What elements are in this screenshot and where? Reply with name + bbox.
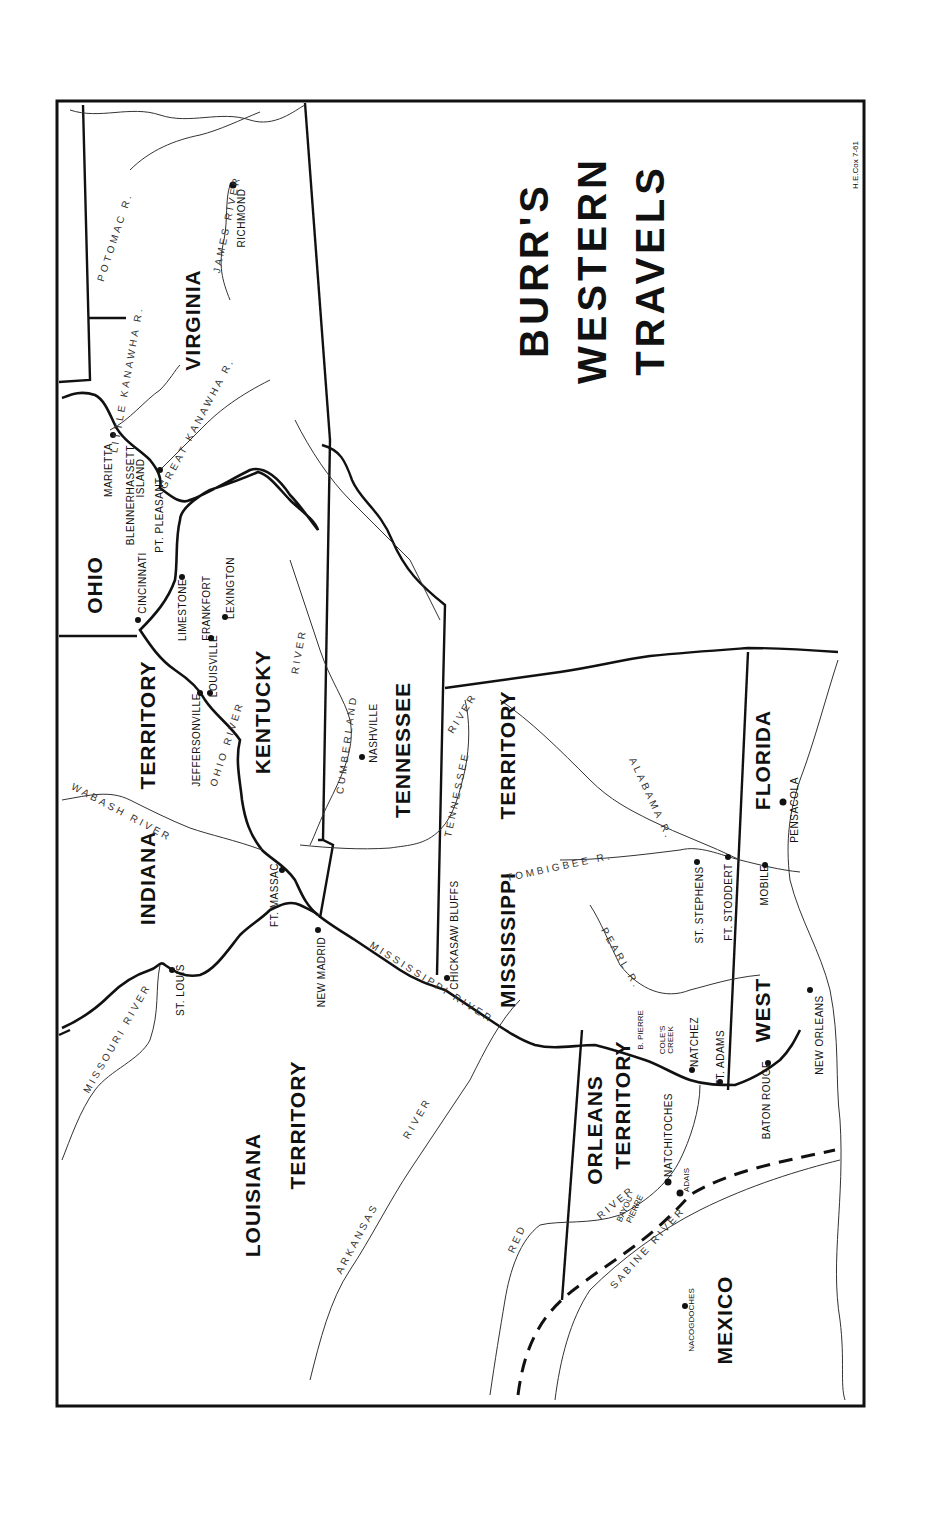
label-mississippi: MISSISSIPPI	[496, 872, 519, 1008]
georgia-boundary	[445, 648, 838, 688]
map-credit: H.E.Cox 7-61	[851, 140, 860, 189]
label-arkansas-river: RIVER	[401, 1096, 433, 1141]
mexico-border	[518, 1150, 835, 1395]
label-pensacola: PENSACOLA	[789, 777, 800, 843]
label-indiana-territory: TERRITORY	[136, 660, 159, 789]
city-dot-new-orleans	[807, 987, 813, 993]
label-nashville: NASHVILLE	[368, 703, 379, 763]
label-pearl-river: PEARL R.	[599, 926, 643, 991]
city-dot-pt-pleasant	[157, 467, 163, 473]
label-arkansas: ARKANSAS	[334, 1201, 381, 1275]
label-orleans-territory: TERRITORY	[611, 1040, 634, 1169]
label-alabama-river: ALABAMA R.	[627, 756, 675, 842]
label-louisville: LOUISVILLE	[208, 635, 219, 697]
label-st-louis: ST. LOUIS	[175, 964, 186, 1016]
label-tombigbee-river: TOMBIGBEE R.	[505, 850, 613, 883]
label-chickasaw-bluffs: CHICKASAW BLUFFS	[449, 880, 460, 989]
label-orleans: ORLEANS	[583, 1075, 606, 1185]
label-great-kanawha-river: GREAT KANAWHA R.	[158, 356, 237, 491]
city-dot-natchitoches	[665, 1179, 672, 1186]
orleans-boundary	[562, 1030, 582, 1300]
label-frankfort: FRANKFORT	[201, 575, 212, 640]
label-ft-adams: FT. ADAMS	[715, 1030, 726, 1086]
burrs-western-travels-map: BURR'S WESTERN TRAVELS H.E.Cox 7-61 VIRG…	[0, 0, 932, 1536]
label-b-pierre: B. PIERRE	[636, 1010, 645, 1050]
label-red: RED	[505, 1223, 528, 1255]
label-cumberland-river: CUMBERLAND	[334, 694, 359, 795]
north-carolina-boundary	[322, 445, 445, 690]
atlantic-coast	[70, 105, 305, 122]
alabama-river-course	[500, 700, 740, 860]
label-louisiana-territory: TERRITORY	[286, 1060, 309, 1189]
label-limestone: LIMESTONE	[177, 579, 188, 641]
label-west: WEST	[751, 978, 774, 1043]
ohio-river	[62, 393, 318, 915]
label-st-stephens: ST. STEPHENS	[694, 866, 705, 943]
map-title-line-1: BURR'S	[512, 182, 556, 358]
label-nacogdoches: NACOGDOCHES	[687, 1288, 696, 1352]
label-mississippi-territory: TERRITORY	[496, 690, 519, 819]
label-lexington: LEXINGTON	[225, 557, 236, 619]
city-dot-cincinnati	[135, 617, 141, 623]
wabash-river-course	[62, 794, 262, 850]
label-virginia: VIRGINIA	[181, 269, 204, 370]
sabine-river-course	[555, 1160, 840, 1400]
arkansas-river-course	[310, 1000, 520, 1380]
label-baton-rouge: BATON ROUGE	[761, 1061, 772, 1139]
cumberland-river-course	[290, 560, 351, 845]
label-potomac-river: POTOMAC R.	[95, 191, 134, 283]
label-new-orleans: NEW ORLEANS	[814, 995, 825, 1074]
label-cincinnati: CINCINNATI	[137, 552, 148, 613]
label-mississippi-river: MISSISSIPPI RIVER	[368, 939, 496, 1025]
city-dot-pensacola	[780, 799, 787, 806]
label-creek: CREEK	[666, 1026, 675, 1054]
label-adais: ADAIS	[682, 1168, 691, 1192]
label-ohio: OHIO	[83, 556, 106, 614]
label-cumberland-river-2: RIVER	[289, 628, 308, 675]
potomac-river-course	[130, 112, 260, 170]
label-ft-stoddert: FT. STODDERT	[723, 863, 734, 940]
tennessee-headwaters	[295, 420, 440, 620]
virginia-boundary	[305, 103, 330, 440]
map-title-line-3: TRAVELS	[628, 164, 672, 376]
label-jeffersonville: JEFFERSONVILLE	[191, 693, 202, 787]
label-natchitoches: NATCHITOCHES	[663, 1093, 674, 1177]
label-ft-massac: FT. MASSAC	[269, 863, 280, 927]
label-new-madrid: NEW MADRID	[316, 937, 327, 1008]
label-tennessee: TENNESSEE	[391, 682, 414, 818]
city-dot-ft-stoddert	[725, 854, 731, 860]
label-mexico: MEXICO	[713, 1276, 736, 1365]
map-title-line-2: WESTERN	[570, 156, 614, 384]
label-kentucky: KENTUCKY	[251, 650, 274, 775]
city-dot-new-madrid	[315, 927, 321, 933]
label-little-kanawha-river: LITTLE KANAWHA R.	[108, 305, 145, 454]
label-florida: FLORIDA	[751, 710, 774, 810]
city-dot-nashville	[359, 754, 365, 760]
indiana-west-boundary	[59, 1030, 70, 1035]
kentucky-tennessee-boundary	[318, 840, 333, 918]
label-louisiana: LOUISIANA	[241, 1133, 264, 1258]
pennsylvania-boundary	[59, 105, 90, 382]
label-mobile: MOBILE	[759, 865, 770, 906]
label-indiana: INDIANA	[136, 831, 159, 926]
tennessee-north-boundary	[323, 440, 330, 840]
label-natchez: NATCHEZ	[689, 1017, 700, 1067]
city-dot-st-stephens	[694, 859, 700, 865]
label-missouri-river: MISSOURI RIVER	[81, 981, 153, 1095]
label-tennessee-river-2: RIVER	[445, 691, 478, 735]
label-blennerhassett-island: ISLAND	[135, 458, 146, 497]
label-tennessee-river: TENNESSEE	[442, 750, 471, 838]
